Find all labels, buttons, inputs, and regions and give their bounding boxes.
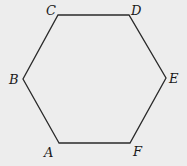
- vertex-label-a: A: [43, 145, 53, 160]
- hexagon-figure: A B C D E F: [0, 0, 187, 166]
- vertex-label-e: E: [168, 71, 179, 86]
- vertex-label-f: F: [132, 144, 143, 159]
- hexagon-diagram: A B C D E F: [0, 0, 187, 166]
- vertex-label-d: D: [130, 3, 142, 18]
- vertex-label-b: B: [8, 72, 19, 87]
- hexagon-outline: [23, 15, 166, 143]
- vertex-label-c: C: [46, 3, 56, 18]
